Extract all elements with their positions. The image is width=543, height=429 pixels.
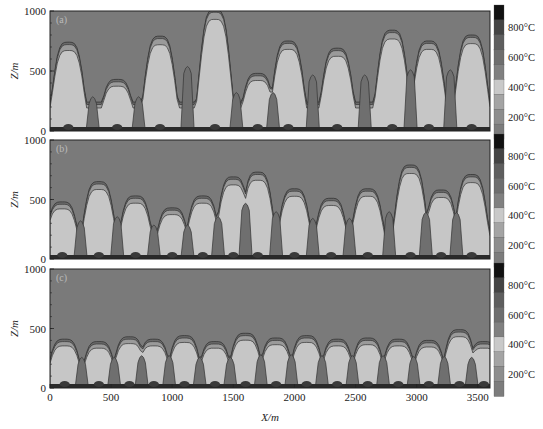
colorbar-swatch — [494, 134, 504, 149]
panel-contents — [50, 10, 490, 131]
colorbar-label: 800°C — [508, 22, 535, 33]
colorbar-swatch — [494, 65, 504, 80]
surface-layer — [50, 255, 490, 259]
surface-hotspot — [253, 252, 263, 258]
surface-hotspot — [241, 381, 251, 387]
x-tick-label: 0 — [47, 391, 53, 403]
panel-contents — [50, 140, 490, 259]
colorbar-label: 600°C — [508, 310, 535, 321]
y-axis-label: Z/m — [8, 191, 20, 208]
panel-contents — [50, 269, 490, 388]
colorbar-label: 200°C — [508, 369, 535, 380]
colorbar-label: 200°C — [508, 240, 535, 251]
colorbar-swatch — [494, 381, 504, 396]
y-axis-label: Z/m — [8, 320, 20, 337]
colorbar-label: 400°C — [508, 210, 535, 221]
surface-hotspot — [283, 124, 293, 130]
surface-hotspot — [271, 381, 281, 387]
surface-hotspot — [112, 124, 122, 130]
colorbar-label: 400°C — [508, 82, 535, 93]
colorbar-swatch — [494, 278, 504, 293]
colorbar-label: 200°C — [508, 112, 535, 123]
surface-hotspot — [363, 252, 373, 258]
colorbar-swatch — [494, 263, 504, 278]
surface-hotspot — [406, 252, 416, 258]
colorbar-swatch — [494, 337, 504, 352]
surface-hotspot — [149, 381, 159, 387]
colorbar-swatch — [494, 322, 504, 337]
y-tick-label: 500 — [30, 323, 47, 335]
surface-hotspot — [332, 381, 342, 387]
surface-hotspot — [131, 252, 141, 258]
surface-hotspot — [228, 252, 238, 258]
surface-hotspot — [155, 124, 165, 130]
y-axis-label: Z/m — [8, 62, 20, 79]
colorbar-label: 800°C — [508, 151, 535, 162]
surface-hotspot — [424, 124, 434, 130]
x-tick-label: 1000 — [161, 391, 184, 403]
surface-hotspot — [454, 381, 464, 387]
colorbar-swatch — [494, 149, 504, 164]
colorbar-swatch — [494, 94, 504, 109]
panel-a: (a)05001000Z/m800°C600°C400°C200°C — [8, 5, 535, 140]
surface-hotspot — [124, 381, 134, 387]
y-tick-label: 1000 — [24, 263, 47, 275]
x-tick-label: 3500 — [467, 391, 490, 403]
surface-hotspot — [479, 381, 489, 387]
surface-hotspot — [302, 381, 312, 387]
surface-hotspot — [63, 124, 73, 130]
panel-label: (c) — [56, 272, 67, 284]
surface-hotspot — [179, 381, 189, 387]
surface-hotspot — [289, 252, 299, 258]
surface-hotspot — [363, 381, 373, 387]
colorbar-swatch — [494, 79, 504, 94]
colorbar-swatch — [494, 5, 504, 20]
colorbar-label: 600°C — [508, 52, 535, 63]
surface-hotspot — [436, 252, 446, 258]
colorbar-swatch — [494, 237, 504, 252]
colorbar-swatch — [494, 352, 504, 367]
y-tick-label: 1000 — [24, 5, 47, 17]
surface-hotspot — [326, 252, 336, 258]
x-tick-label: 1500 — [222, 391, 245, 403]
surface-hotspot — [198, 252, 208, 258]
y-tick-label: 500 — [30, 194, 47, 206]
y-tick-label: 0 — [41, 382, 47, 394]
x-tick-label: 3000 — [406, 391, 429, 403]
figure: (a)05001000Z/m800°C600°C400°C200°C(b)050… — [0, 0, 543, 429]
colorbar-swatch — [494, 35, 504, 50]
surface-hotspot — [467, 252, 477, 258]
colorbar-swatch — [494, 223, 504, 238]
colorbar-swatch — [494, 50, 504, 65]
panel-b: (b)05001000Z/m800°C600°C400°C200°C — [8, 134, 535, 268]
colorbar-swatch — [494, 193, 504, 208]
surface-hotspot — [253, 124, 263, 130]
surface-hotspot — [167, 252, 177, 258]
colorbar-label: 800°C — [508, 280, 535, 291]
y-tick-label: 500 — [30, 65, 47, 77]
x-tick-label: 500 — [103, 391, 120, 403]
x-tick-label: 2500 — [345, 391, 368, 403]
surface-hotspot — [210, 124, 220, 130]
surface-hotspot — [424, 381, 434, 387]
colorbar-swatch — [494, 164, 504, 179]
colorbar-swatch — [494, 366, 504, 381]
surface-hotspot — [332, 124, 342, 130]
x-tick-label: 2000 — [283, 391, 306, 403]
colorbar-swatch — [494, 20, 504, 35]
colorbar-label: 600°C — [508, 181, 535, 192]
panel-label: (a) — [56, 14, 67, 26]
surface-hotspot — [94, 252, 104, 258]
surface-hotspot — [467, 124, 477, 130]
surface-hotspot — [94, 381, 104, 387]
panel-label: (b) — [56, 143, 68, 155]
surface-hotspot — [393, 381, 403, 387]
colorbar-swatch — [494, 307, 504, 322]
colorbar-swatch — [494, 208, 504, 223]
colorbar-swatch — [494, 178, 504, 193]
x-axis-label: X/m — [260, 411, 279, 423]
surface-hotspot — [60, 381, 70, 387]
surface-hotspot — [57, 252, 67, 258]
colorbar-swatch — [494, 109, 504, 124]
surface-hotspot — [210, 381, 220, 387]
